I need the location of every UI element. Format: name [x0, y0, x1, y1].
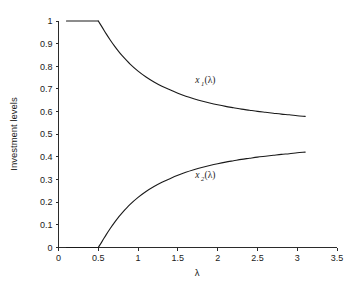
x-tick-label: 3.5: [331, 253, 344, 263]
annotation-1-argument: (λ): [205, 75, 216, 86]
annotation-1: x1(λ): [194, 75, 215, 87]
y-tick-label: 0.4: [40, 152, 53, 162]
y-tick-label: 0.5: [40, 129, 53, 139]
line-chart: 00.10.20.30.40.50.60.70.80.91 Investment…: [0, 0, 352, 288]
y-tick-label: 0.2: [40, 197, 53, 207]
y-tick-label: 1: [47, 16, 52, 26]
y-tick-label: 0.8: [40, 62, 53, 72]
annotation-2-argument: (λ): [205, 170, 216, 181]
figure-background: [0, 0, 352, 288]
y-tick-label: 0.7: [40, 84, 53, 94]
x-axis-title: λ: [195, 267, 200, 278]
x-tick-label: 3: [295, 253, 300, 263]
annotation-2: x2(λ): [194, 170, 215, 182]
x-tick-label: 1.5: [172, 253, 185, 263]
x-tick-label: 2: [215, 253, 220, 263]
x-tick-label: 1: [136, 253, 141, 263]
x-tick-label: 0: [56, 253, 61, 263]
x-tick-label: 2.5: [251, 253, 264, 263]
y-tick-label: 0.1: [40, 220, 53, 230]
annotation-1-base: x: [194, 75, 200, 85]
annotation-2-base: x: [194, 170, 200, 180]
y-tick-label: 0.9: [40, 39, 53, 49]
y-tick-label: 0.3: [40, 175, 53, 185]
x-tick-label: 0.5: [92, 253, 105, 263]
y-tick-label: 0.6: [40, 107, 53, 117]
y-axis-title: Investment levels: [8, 97, 19, 171]
y-tick-label: 0: [47, 243, 52, 253]
chart-figure: 00.10.20.30.40.50.60.70.80.91 Investment…: [0, 0, 352, 288]
